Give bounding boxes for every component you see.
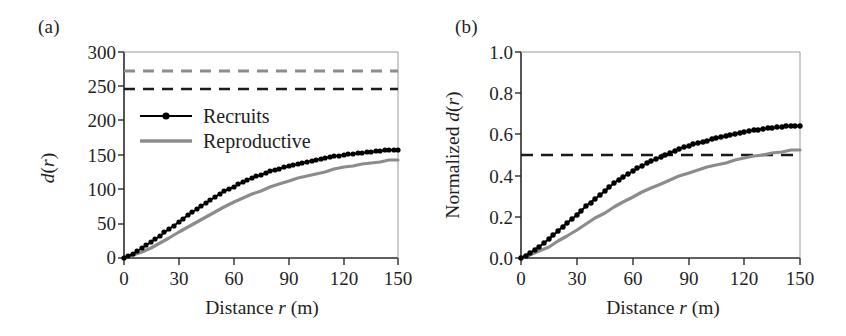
panel-a-xtick-0: 0 <box>119 268 129 289</box>
panel-b-xtick-0: 0 <box>516 268 526 289</box>
panel-b-xtick-120: 120 <box>730 268 759 289</box>
panel-b-ytick-1-0: 1.0 <box>489 42 513 63</box>
panel-a-ytick-100: 100 <box>88 179 117 200</box>
panel-a-ytick-50: 50 <box>97 213 116 234</box>
panel-a-legend: Recruits Reproductive <box>140 105 311 153</box>
panel-b-plot: 1.0 0.8 0.6 0.4 0.2 0.0 0 30 60 90 120 1… <box>423 0 846 336</box>
panel-b-ytick-0-8: 0.8 <box>489 83 513 104</box>
panel-b-xtick-90: 90 <box>680 268 699 289</box>
legend-label-recruits: Recruits <box>203 105 270 127</box>
panel-a-y-ticks <box>118 52 124 258</box>
panel-b-xtick-60: 60 <box>624 268 643 289</box>
panel-b-ytick-0-6: 0.6 <box>489 124 513 145</box>
panel-b-y-ticks <box>515 52 521 258</box>
panel-b-x-ticks <box>521 258 800 265</box>
panel-b-ylabel: Normalized d(r) <box>442 91 464 218</box>
panel-b-ytick-0-2: 0.2 <box>489 207 513 228</box>
legend-swatch-recruits-marker <box>162 112 169 119</box>
panel-b-ytick-0-0: 0.0 <box>489 248 513 269</box>
panel-b-xtick-30: 30 <box>568 268 587 289</box>
panel-a-ylabel: d(r) <box>37 153 59 183</box>
panel-a-xlabel: Distance r (m) <box>205 297 319 319</box>
panel-a-plot: 300 250 200 150 100 50 0 0 30 60 90 120 … <box>0 0 423 336</box>
panel-b-xlabel: Distance r (m) <box>606 297 720 319</box>
panel-a-xtick-90: 90 <box>280 268 299 289</box>
panel-a-ytick-200: 200 <box>88 110 117 131</box>
panel-a-x-ticks <box>124 258 398 265</box>
legend-label-reproductive: Reproductive <box>203 130 311 153</box>
panel-a-ytick-300: 300 <box>88 42 117 63</box>
panel-b-curve-reproductive <box>521 150 800 258</box>
panel-a-ytick-150: 150 <box>88 145 117 166</box>
panel-a-xtick-60: 60 <box>225 268 244 289</box>
panel-b-xtick-150: 150 <box>786 268 815 289</box>
panel-a-xtick-150: 150 <box>384 268 413 289</box>
panel-b: (b) 1.0 0.8 0.6 0.4 0.2 0.0 0 30 60 90 1… <box>423 0 846 336</box>
panel-a-ytick-250: 250 <box>88 76 117 97</box>
panel-b-ytick-0-4: 0.4 <box>489 166 513 187</box>
panel-a-ytick-0: 0 <box>107 247 117 268</box>
figure-container: (a) 300 250 200 150 100 50 0 0 30 60 90 … <box>0 0 846 336</box>
panel-a-xtick-120: 120 <box>330 268 359 289</box>
panel-a-xtick-30: 30 <box>170 268 189 289</box>
panel-a: (a) 300 250 200 150 100 50 0 0 30 60 90 … <box>0 0 423 336</box>
